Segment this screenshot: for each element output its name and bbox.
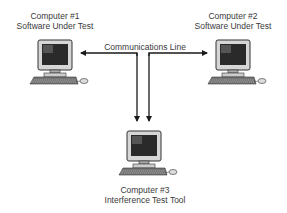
computer-1-label: Computer #1 Software Under Test [10, 11, 100, 31]
computer-2-label: Computer #2 Software Under Test [188, 11, 278, 31]
computer-2-title: Computer #2 [188, 11, 278, 21]
computer-1-icon [30, 40, 88, 84]
computer-3-label: Computer #3 Interference Test Tool [95, 185, 195, 205]
computer-2-subtitle: Software Under Test [188, 21, 278, 31]
communications-line-label: Communications Line [95, 42, 195, 52]
computer-2-icon [208, 40, 266, 84]
diagram-canvas [0, 0, 287, 213]
computer-1-subtitle: Software Under Test [10, 21, 100, 31]
computer-3-icon [119, 131, 177, 175]
communications-line [81, 53, 207, 121]
computer-1-title: Computer #1 [10, 11, 100, 21]
computer-3-subtitle: Interference Test Tool [95, 195, 195, 205]
computer-3-title: Computer #3 [95, 185, 195, 195]
